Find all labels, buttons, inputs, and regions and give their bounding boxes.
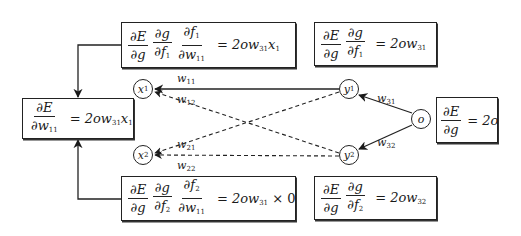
label-w22-sub: 22 (186, 165, 195, 173)
frac-den: ∂f1 (345, 42, 365, 63)
label-w11-sub: 11 (186, 78, 195, 86)
frac-den-sub: 11 (196, 55, 205, 63)
rhs-main: 2ow (232, 191, 259, 206)
label-w12: w12 (177, 93, 195, 107)
label-w32: w32 (377, 136, 395, 150)
label-w12-text: w (177, 93, 186, 106)
label-w12-sub: 12 (186, 99, 195, 107)
node-x2: x2 (133, 145, 153, 165)
frac-den-main: ∂f (154, 44, 166, 59)
label-w31-text: w (377, 92, 386, 105)
frac-num: ∂E (128, 29, 148, 46)
label-w31-sub: 31 (386, 98, 395, 106)
frac-num-main: ∂f (184, 24, 196, 39)
fraction-dg-df1: ∂g ∂f1 (152, 26, 172, 64)
label-w32-sub: 32 (386, 142, 395, 150)
fraction-df1-dw11: ∂f1 ∂w11 (176, 24, 207, 67)
fraction-dg-df1: ∂g ∂f1 (345, 25, 365, 63)
fraction-dE-dg: ∂E ∂g (128, 29, 148, 62)
fraction-dE-dg: ∂E ∂g (321, 182, 341, 215)
frac-num-sub: 2 (195, 185, 199, 193)
rhs-suffix-sub: 1 (128, 119, 132, 127)
label-w21: w21 (177, 138, 195, 152)
fraction-dE-dw11: ∂E ∂w11 (29, 100, 60, 138)
frac-num: ∂E (321, 28, 341, 45)
fraction-dg-df2: ∂g ∂f2 (152, 180, 172, 218)
frac-den-main: ∂f (347, 197, 359, 212)
label-w11: w11 (177, 72, 195, 86)
frac-den: ∂f1 (152, 43, 172, 64)
fraction-dg-df2: ∂g ∂f2 (345, 179, 365, 217)
frac-den: ∂f2 (152, 197, 172, 218)
node-y1: y1 (339, 79, 359, 99)
frac-den-sub: 11 (196, 208, 205, 216)
frac-den-sub: 11 (49, 126, 58, 134)
frac-num: ∂f1 (182, 24, 202, 46)
rhs-sub: 31 (417, 44, 426, 52)
box-dE-df1: ∂E ∂g ∂g ∂f1 =2ow31 (314, 22, 437, 66)
rhs-main: 2ow (390, 190, 417, 205)
fraction-dE-dg: ∂E ∂g (321, 28, 341, 61)
box-dE-dw11-via-f1: ∂E ∂g ∂g ∂f1 ∂f1 ∂w11 =2ow31x1 (121, 22, 296, 68)
frac-den-main: ∂w (178, 200, 196, 215)
box-dE-dw11-via-f2: ∂E ∂g ∂g ∂f2 ∂f2 ∂w11 =2ow31 × 0 (121, 176, 296, 221)
frac-num: ∂E (321, 182, 341, 199)
rhs-sub: 31 (259, 199, 268, 207)
frac-den: ∂g (322, 45, 341, 61)
node-x2-sub: 2 (144, 151, 148, 159)
label-w22: w22 (177, 159, 195, 173)
rhs-times-zero: × 0 (272, 191, 295, 206)
frac-den-sub: 2 (359, 205, 363, 213)
rhs: =2ow31 (375, 36, 426, 52)
rhs-main: 2o (482, 113, 498, 128)
label-w22-text: w (177, 159, 186, 172)
box-dE-df2: ∂E ∂g ∂g ∂f2 =2ow32 (314, 176, 437, 220)
frac-den: ∂g (442, 121, 461, 137)
frac-den-sub: 1 (359, 51, 363, 59)
frac-num: ∂E (128, 182, 148, 199)
label-w11-text: w (177, 72, 186, 85)
connector-top-to-left (78, 45, 121, 97)
node-o: o (411, 109, 431, 129)
rhs: =2ow31x1 (217, 37, 280, 53)
rhs: =2ow32 (375, 190, 426, 206)
frac-den: ∂w11 (176, 46, 207, 67)
equals-sign: = (375, 190, 386, 205)
fraction-df2-dw11: ∂f2 ∂w11 (176, 177, 207, 220)
frac-num-sub: 1 (195, 32, 199, 40)
frac-num: ∂g (153, 26, 172, 43)
frac-den-main: ∂w (31, 118, 49, 133)
label-w21-sub: 21 (186, 144, 195, 152)
box-dE-dg: ∂E ∂g =2o (436, 97, 498, 143)
label-w32-text: w (377, 136, 386, 149)
rhs-sub: 31 (259, 45, 268, 53)
rhs-sub: 31 (112, 119, 121, 127)
frac-num: ∂E (441, 104, 461, 121)
box-dE-dw11-result: ∂E ∂w11 =2ow31x1 (22, 98, 134, 139)
frac-den-main: ∂w (178, 47, 196, 62)
frac-num: ∂f2 (182, 177, 202, 199)
frac-den: ∂g (129, 46, 148, 62)
frac-num-main: ∂f (184, 177, 196, 192)
label-w31: w31 (377, 92, 395, 106)
frac-den: ∂w11 (29, 117, 60, 138)
fraction-dE-dg: ∂E ∂g (128, 182, 148, 215)
frac-num: ∂g (153, 180, 172, 197)
frac-den: ∂g (129, 199, 148, 215)
equals-sign: = (217, 191, 228, 206)
rhs-sub: 32 (417, 198, 426, 206)
rhs-suffix-sub: 1 (275, 45, 279, 53)
connector-bottom-to-left (78, 140, 121, 199)
frac-den-main: ∂f (154, 198, 166, 213)
frac-den-sub: 1 (166, 52, 170, 60)
rhs-main: 2ow (85, 111, 112, 126)
edge-w22 (155, 155, 339, 156)
node-y2-sub: 2 (350, 151, 354, 159)
equals-sign: = (70, 111, 81, 126)
rhs-main: 2ow (390, 36, 417, 51)
equals-sign: = (217, 37, 228, 52)
rhs: =2o (467, 113, 498, 128)
rhs-main: 2ow (232, 37, 259, 52)
rhs: =2ow31 × 0 (217, 191, 296, 207)
node-o-label: o (418, 113, 425, 126)
